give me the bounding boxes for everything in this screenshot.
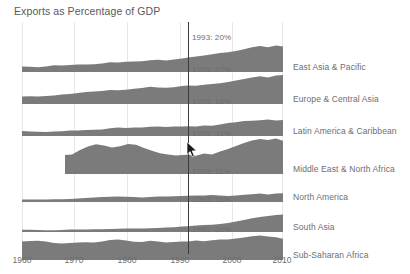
panel-latin-america-caribbean[interactable]	[22, 104, 283, 136]
area-shape-latin-america-caribbean	[22, 104, 283, 136]
panel-east-asia-pacific[interactable]	[22, 40, 283, 72]
annotation-south-asia: 1993: 11%	[192, 195, 231, 204]
xtick-1990: 1990	[171, 255, 190, 265]
panel-europe-central-asia[interactable]	[22, 72, 283, 104]
series-label-east-asia-pacific: East Asia & Pacific	[293, 62, 366, 72]
panel-sub-saharan-africa[interactable]	[22, 232, 283, 260]
xtick-2000: 2000	[223, 255, 242, 265]
xtick-1980: 1980	[118, 255, 137, 265]
series-label-sub-saharan-africa: Sub-Saharan Africa	[293, 250, 369, 260]
xtick-1970: 1970	[65, 255, 84, 265]
area-shape-europe-central-asia	[22, 72, 283, 104]
annotation-north-america: 1993: 11%	[192, 167, 231, 176]
panel-north-america[interactable]	[22, 174, 283, 202]
annotation-east-asia-pacific: 1993: 20%	[192, 33, 231, 42]
area-shape-east-asia-pacific	[22, 40, 283, 72]
annotation-latin-america-caribbean: 1993: 16%	[192, 97, 231, 106]
annotation-sub-saharan-africa: 1993: 26%	[192, 225, 231, 234]
series-label-north-america: North America	[293, 192, 348, 202]
area-shape-sub-saharan-africa	[22, 232, 283, 260]
chart-title: Exports as Percentage of GDP	[14, 5, 160, 17]
plot-area[interactable]: 1993: 20% 1993: 27% 1993: 16% 1993: 31% …	[22, 22, 283, 250]
chart-container: Exports as Percentage of GDP	[0, 0, 410, 274]
series-label-middle-east-north-africa: Middle East & North Africa	[293, 164, 395, 174]
year-marker-line-1993[interactable]	[188, 22, 189, 254]
area-shape-north-america	[22, 174, 283, 202]
series-label-south-asia: South Asia	[293, 222, 335, 232]
series-label-europe-central-asia: Europe & Central Asia	[293, 94, 379, 104]
area-shape-middle-east-north-africa	[22, 136, 283, 174]
panel-middle-east-north-africa[interactable]	[22, 136, 283, 174]
annotation-europe-central-asia: 1993: 27%	[192, 65, 231, 74]
panel-south-asia[interactable]	[22, 202, 283, 232]
area-shape-south-asia	[22, 202, 283, 232]
xtick-2010: 2010	[273, 255, 292, 265]
series-label-latin-america-caribbean: Latin America & Caribbean	[293, 126, 397, 136]
xtick-1960: 1960	[13, 255, 32, 265]
annotation-middle-east-north-africa: 1993: 31%	[192, 129, 231, 138]
